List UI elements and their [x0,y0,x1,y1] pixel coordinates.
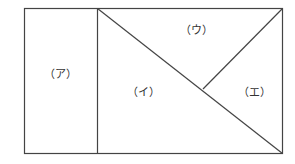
label-e: （エ） [238,83,271,99]
figure-diagram [0,0,295,164]
label-i: （イ） [127,83,160,99]
short-diagonal [203,9,283,90]
outer-rectangle [25,9,283,154]
label-a: （ア） [44,65,77,81]
label-u: （ウ） [180,21,213,37]
